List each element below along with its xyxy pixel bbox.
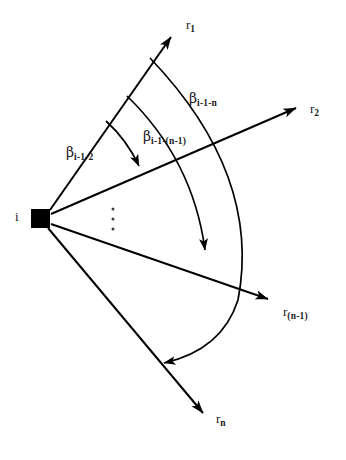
- figure-canvas: r1 r2 r(n-1) rn i βi-1-n βi-1-(n-1) βi-1…: [0, 0, 346, 460]
- ray-label-r-n-minus-1-subscript: (n-1): [287, 311, 308, 321]
- angle-label-beta-i-1-n: βi-1-n: [189, 90, 217, 109]
- ray-label-r1-subscript: 1: [190, 24, 195, 34]
- angle-label-beta-i-1-2: βi-1-2: [66, 144, 94, 163]
- angle-label-beta-i-1-n-minus-1-base: β: [143, 128, 151, 144]
- angle-label-beta-i-1-2-subscript: i-1-2: [74, 152, 93, 162]
- arc-beta-i-1-2: [106, 121, 139, 166]
- angle-arc-group: [106, 58, 242, 363]
- ellipsis-dots: [112, 208, 115, 231]
- ray-label-r2-subscript: 2: [314, 108, 319, 118]
- ray-label-r-n-minus-1: r(n-1): [283, 303, 308, 322]
- diagram-svg: [0, 0, 346, 460]
- angle-label-beta-i-1-n-subscript: i-1-n: [197, 98, 217, 108]
- vertex-node-square: [31, 209, 50, 228]
- ray-r-n-minus-1-line: [51, 224, 268, 299]
- arc-beta-i-1-n-minus-1: [127, 96, 205, 250]
- angle-label-beta-i-1-n-minus-1: βi-1-(n-1): [143, 128, 186, 147]
- ray-group: [48, 37, 296, 413]
- angle-label-beta-i-1-n-minus-1-subscript: i-1-(n-1): [151, 136, 186, 146]
- ray-label-r2: r2: [310, 100, 319, 119]
- ray-label-r1: r1: [186, 16, 195, 35]
- ray-rn-line: [48, 228, 203, 413]
- angle-label-beta-i-1-2-base: β: [66, 144, 74, 160]
- angle-label-beta-i-1-n-base: β: [189, 90, 197, 106]
- ray-label-rn-subscript: n: [220, 418, 225, 428]
- vertex-label-i: i: [15, 210, 19, 223]
- ray-label-rn: rn: [216, 410, 226, 429]
